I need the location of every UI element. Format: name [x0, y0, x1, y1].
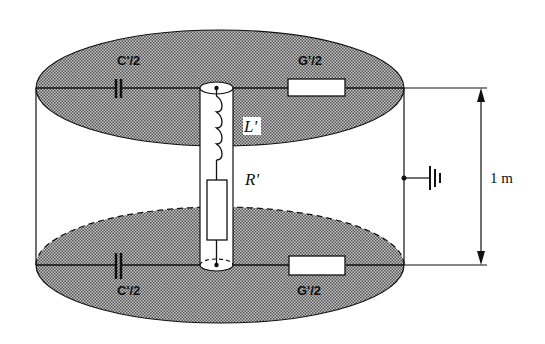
ground-icon: [402, 166, 441, 190]
label-conductance-top: G'/2: [298, 53, 322, 68]
label-conductance-bottom: G'/2: [297, 283, 321, 298]
label-capacitance-top: C'/2: [117, 53, 140, 68]
label-resistance: R': [244, 170, 259, 189]
resistor-series-icon: [207, 180, 227, 240]
dimension-arrow: [404, 88, 487, 265]
label-inductance: L': [243, 117, 257, 136]
resistor-bottom-icon: [289, 256, 345, 275]
label-length: 1 m: [490, 170, 513, 186]
transmission-line-diagram: C'/2 G'/2 L' R' C'/2 G'/2 1 m: [0, 0, 545, 344]
label-capacitance-bottom: C'/2: [117, 283, 140, 298]
resistor-top-icon: [288, 79, 345, 96]
